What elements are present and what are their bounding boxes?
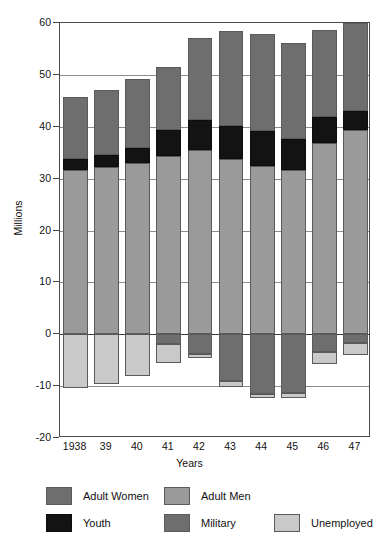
- bar-segment[interactable]: [125, 148, 150, 163]
- bar-segment[interactable]: [343, 23, 368, 111]
- bar-column[interactable]: [219, 23, 244, 436]
- bar-segment[interactable]: [63, 334, 88, 388]
- bar-segment[interactable]: [188, 38, 213, 120]
- legend-label: Adult Women: [83, 490, 149, 502]
- y-tick-label: 60: [39, 17, 51, 27]
- chart-legend: Adult WomenAdult MenYouthMilitaryUnemplo…: [46, 487, 368, 539]
- bar-segment[interactable]: [125, 334, 150, 376]
- bar-segment[interactable]: [281, 139, 306, 170]
- bar-segment[interactable]: [250, 131, 275, 166]
- legend-item[interactable]: Adult Men: [164, 487, 251, 505]
- legend-swatch-mil-icon: [164, 514, 190, 532]
- bar-segment[interactable]: [250, 34, 275, 131]
- x-tick-label: 47: [324, 441, 379, 452]
- plot-area: [59, 22, 370, 437]
- bar-segment[interactable]: [188, 120, 213, 150]
- bar-column[interactable]: [281, 23, 306, 436]
- legend-label: Adult Men: [201, 490, 251, 502]
- legend-swatch-unemp-icon: [274, 514, 300, 532]
- bar-segment[interactable]: [219, 334, 244, 381]
- bar-column[interactable]: [343, 23, 368, 436]
- bar-segment[interactable]: [188, 354, 213, 358]
- bar-segment[interactable]: [281, 170, 306, 334]
- legend-item[interactable]: Unemployed: [274, 514, 373, 532]
- bar-segment[interactable]: [343, 111, 368, 130]
- bar-segment[interactable]: [312, 334, 337, 352]
- bar-segment[interactable]: [219, 159, 244, 334]
- bar-segment[interactable]: [312, 117, 337, 143]
- bar-segment[interactable]: [281, 393, 306, 398]
- y-tick-label: 50: [39, 69, 51, 79]
- bar-segment[interactable]: [312, 143, 337, 334]
- bar-column[interactable]: [250, 23, 275, 436]
- y-tick-label: 20: [39, 225, 51, 235]
- bar-segment[interactable]: [312, 352, 337, 364]
- bar-segment[interactable]: [63, 97, 88, 159]
- y-tick-label: 40: [39, 121, 51, 131]
- legend-label: Military: [201, 517, 236, 529]
- bar-segment[interactable]: [63, 170, 88, 334]
- x-axis-title: Years: [0, 457, 379, 469]
- bar-segment[interactable]: [156, 67, 181, 130]
- legend-item[interactable]: Youth: [46, 514, 111, 532]
- bar-segment[interactable]: [219, 126, 244, 160]
- chart-figure: Millions 6050403020100-10-20 19383940414…: [0, 0, 379, 545]
- legend-label: Unemployed: [311, 517, 373, 529]
- y-tick-mark: [53, 437, 59, 438]
- bar-column[interactable]: [156, 23, 181, 436]
- bar-segment[interactable]: [343, 130, 368, 334]
- bar-column[interactable]: [63, 23, 88, 436]
- bar-segment[interactable]: [156, 344, 181, 364]
- legend-swatch-youth-icon: [46, 514, 72, 532]
- bar-segment[interactable]: [219, 381, 244, 387]
- bar-segment[interactable]: [281, 43, 306, 139]
- legend-item[interactable]: Adult Women: [46, 487, 149, 505]
- bar-segment[interactable]: [281, 334, 306, 393]
- bar-segment[interactable]: [219, 31, 244, 125]
- bar-column[interactable]: [188, 23, 213, 436]
- bar-segment[interactable]: [156, 156, 181, 334]
- bar-segment[interactable]: [343, 334, 368, 342]
- bar-segment[interactable]: [250, 394, 275, 398]
- bar-segment[interactable]: [343, 343, 368, 355]
- bar-segment[interactable]: [188, 150, 213, 335]
- bar-segment[interactable]: [94, 167, 119, 335]
- bar-segment[interactable]: [94, 90, 119, 155]
- bar-segment[interactable]: [156, 334, 181, 343]
- legend-label: Youth: [83, 517, 111, 529]
- legend-swatch-men-icon: [164, 487, 190, 505]
- bar-segment[interactable]: [125, 163, 150, 335]
- bar-series-group: [60, 23, 369, 436]
- bar-segment[interactable]: [94, 155, 119, 167]
- bar-segment[interactable]: [125, 79, 150, 148]
- y-tick-label: 0: [45, 328, 51, 338]
- y-tick-label: 10: [39, 276, 51, 286]
- bar-segment[interactable]: [250, 166, 275, 334]
- bar-column[interactable]: [312, 23, 337, 436]
- legend-swatch-women-icon: [46, 487, 72, 505]
- legend-item[interactable]: Military: [164, 514, 236, 532]
- bar-column[interactable]: [94, 23, 119, 436]
- bar-segment[interactable]: [188, 334, 213, 354]
- bar-segment[interactable]: [312, 30, 337, 117]
- y-tick-label: -10: [36, 380, 51, 390]
- bar-column[interactable]: [125, 23, 150, 436]
- y-tick-label: 30: [39, 173, 51, 183]
- bar-segment[interactable]: [63, 159, 88, 170]
- bar-segment[interactable]: [156, 130, 181, 156]
- bar-segment[interactable]: [250, 334, 275, 394]
- bar-segment[interactable]: [94, 334, 119, 383]
